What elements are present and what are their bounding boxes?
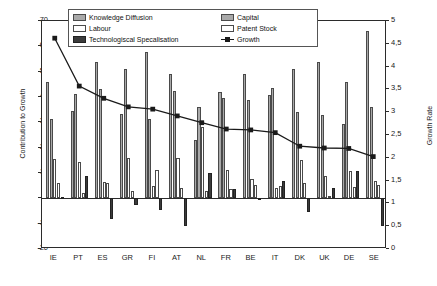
x-tick-label-gr: GR bbox=[114, 253, 140, 262]
swatch-growth-line-icon bbox=[221, 36, 234, 43]
y-tickmark-right bbox=[386, 157, 389, 158]
legend-label-patent-stock: Patent Stock bbox=[237, 25, 277, 32]
y-tick-right-2-5: 2,5 bbox=[391, 130, 419, 138]
x-tick-label-uk: UK bbox=[311, 253, 337, 262]
y-tick-right-0: 0 bbox=[391, 244, 419, 252]
y-tickmark-right bbox=[386, 88, 389, 89]
swatch-capital-icon bbox=[221, 14, 234, 21]
growth-marker-dk bbox=[297, 144, 302, 149]
x-tick-label-it: IT bbox=[262, 253, 288, 262]
legend-label-knowledge-diffusion: Knowledge Diffusion bbox=[89, 14, 153, 21]
y-tickmark-right bbox=[386, 202, 389, 203]
growth-marker-nl bbox=[199, 120, 204, 125]
legend-row-3: Technologiscal Specalisation Growth bbox=[73, 34, 313, 45]
swatch-knowledge-diffusion-icon bbox=[73, 14, 86, 21]
y-tick-right-3-5: 3,5 bbox=[391, 84, 419, 92]
growth-marker-se bbox=[371, 154, 376, 159]
growth-marker-it bbox=[273, 130, 278, 135]
x-tick-label-be: BE bbox=[237, 253, 263, 262]
y-tickmark-right bbox=[386, 180, 389, 181]
x-tick-label-se: SE bbox=[361, 253, 387, 262]
growth-line-series bbox=[42, 21, 385, 247]
chart-container: Contribution to Growth Growth Rate 70605… bbox=[0, 0, 437, 286]
y-tickmark-right bbox=[386, 43, 389, 44]
legend-label-technological-specialisation: Technologiscal Specalisation bbox=[89, 36, 179, 43]
y-tickmark-right bbox=[386, 111, 389, 112]
swatch-patent-stock-icon bbox=[221, 25, 234, 32]
growth-marker-gr bbox=[126, 105, 131, 110]
legend-row-2: Labour Patent Stock bbox=[73, 23, 313, 34]
y-axis-right-title: Growth Rate bbox=[426, 71, 433, 181]
y-tickmark-right bbox=[386, 66, 389, 67]
legend-item-patent-stock: Patent Stock bbox=[221, 25, 313, 32]
x-tick-label-at: AT bbox=[164, 253, 190, 262]
y-tick-right-1: 1 bbox=[391, 198, 419, 206]
legend-row-1: Knowledge Diffusion Capital bbox=[73, 12, 313, 23]
x-tick-label-nl: NL bbox=[188, 253, 214, 262]
x-tick-label-dk: DK bbox=[287, 253, 313, 262]
growth-marker-pt bbox=[77, 84, 82, 89]
legend-label-capital: Capital bbox=[237, 14, 259, 21]
legend-item-labour: Labour bbox=[73, 25, 221, 32]
x-tick-label-fi: FI bbox=[139, 253, 165, 262]
y-tickmark-right bbox=[386, 20, 389, 21]
y-tickmark-right bbox=[386, 134, 389, 135]
y-tick-right-2: 2 bbox=[391, 153, 419, 161]
y-tick-right-3: 3 bbox=[391, 107, 419, 115]
y-tickmark-right bbox=[386, 225, 389, 226]
x-tick-label-es: ES bbox=[90, 253, 116, 262]
y-tick-right-1-5: 1,5 bbox=[391, 176, 419, 184]
growth-marker-fi bbox=[150, 107, 155, 112]
x-tick-label-ie: IE bbox=[40, 253, 66, 262]
y-tickmark-left bbox=[38, 248, 41, 249]
growth-marker-uk bbox=[322, 146, 327, 151]
plot-area bbox=[41, 20, 386, 248]
legend-item-capital: Capital bbox=[221, 14, 313, 21]
chart-legend: Knowledge Diffusion Capital Labour Paten… bbox=[68, 9, 318, 47]
growth-marker-be bbox=[248, 128, 253, 133]
legend-item-technological-specialisation: Technologiscal Specalisation bbox=[73, 36, 221, 43]
y-tick-right-4: 4 bbox=[391, 62, 419, 70]
growth-marker-es bbox=[101, 96, 106, 101]
growth-marker-de bbox=[346, 146, 351, 151]
legend-label-growth: Growth bbox=[237, 36, 260, 43]
legend-item-knowledge-diffusion: Knowledge Diffusion bbox=[73, 14, 221, 21]
swatch-labour-icon bbox=[73, 25, 86, 32]
x-tick-label-de: DE bbox=[336, 253, 362, 262]
y-tick-right-0-5: 0,5 bbox=[391, 221, 419, 229]
growth-marker-at bbox=[175, 114, 180, 119]
growth-marker-ie bbox=[52, 36, 57, 41]
legend-item-growth: Growth bbox=[221, 36, 313, 43]
swatch-technological-specialisation-icon bbox=[73, 36, 86, 43]
legend-label-labour: Labour bbox=[89, 25, 111, 32]
y-tickmark-right bbox=[386, 248, 389, 249]
y-tick-right-4-5: 4,5 bbox=[391, 39, 419, 47]
y-tick-right-5: 5 bbox=[391, 16, 419, 24]
growth-marker-fr bbox=[224, 127, 229, 132]
x-tick-label-fr: FR bbox=[213, 253, 239, 262]
x-tick-label-pt: PT bbox=[65, 253, 91, 262]
